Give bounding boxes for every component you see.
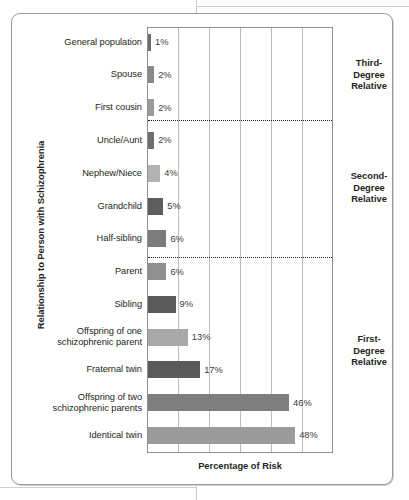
group-label-line1: Third- [341, 58, 397, 70]
bar-row: Sibling9% [0, 289, 409, 319]
bar-row-label: General population [12, 37, 142, 48]
bar-value-label: 46% [293, 398, 312, 408]
group-label-line3: Relative [341, 194, 397, 206]
group-label-second-degree: Second- Degree Relative [341, 171, 397, 206]
page-rule-bottom [0, 487, 197, 488]
bar-row: Identical twin48% [0, 420, 409, 450]
bar-wrapper: 6% [148, 256, 184, 286]
bar-row: Offspring of twoschizophrenic parents46% [0, 387, 409, 417]
bar-row-label: Fraternal twin [12, 364, 142, 375]
bar [148, 66, 154, 83]
group-label-first-degree: First- Degree Relative [341, 334, 397, 369]
bar-row: Uncle/Aunt2% [0, 125, 409, 155]
bar-wrapper: 4% [148, 158, 178, 188]
bar [148, 230, 166, 247]
group-label-line1: Second- [341, 171, 397, 183]
bar-row-label: Nephew/Niece [12, 168, 142, 179]
bar-row: Parent6% [0, 256, 409, 286]
bar-row-label-line1: Identical twin [12, 430, 142, 441]
bar-value-label: 1% [155, 37, 168, 47]
bar [148, 263, 166, 280]
bar-wrapper: 2% [148, 60, 172, 90]
bar-row-label-line1: Sibling [12, 299, 142, 310]
bar-row-label: Identical twin [12, 430, 142, 441]
bar-row-label-line1: First cousin [12, 102, 142, 113]
bar-row-label-line1: Uncle/Aunt [12, 135, 142, 146]
bar-wrapper: 2% [148, 93, 172, 123]
bar-wrapper: 5% [148, 191, 181, 221]
bar-row: First cousin2% [0, 93, 409, 123]
bar-row-label-line2: schizophrenic parents [12, 403, 142, 414]
bar-row-label-line1: Spouse [12, 69, 142, 80]
bar-row-label-line1: Nephew/Niece [12, 168, 142, 179]
bar-row-label: Offspring of twoschizophrenic parents [12, 392, 142, 414]
bar-value-label: 48% [299, 430, 318, 440]
bar-row-label-line1: Parent [12, 266, 142, 277]
bar-value-label: 5% [167, 201, 180, 211]
bar [148, 296, 176, 313]
bar-wrapper: 46% [148, 387, 312, 417]
bar-value-label: 2% [158, 70, 171, 80]
bar-row-label: Sibling [12, 299, 142, 310]
bar-row-label-line1: Offspring of one [12, 326, 142, 337]
bar [148, 427, 295, 444]
bar-row-label-line1: General population [12, 37, 142, 48]
bar-row-label-line1: Fraternal twin [12, 364, 142, 375]
bar-value-label: 13% [192, 332, 211, 342]
bar-wrapper: 6% [148, 224, 184, 254]
bar-row-label: Uncle/Aunt [12, 135, 142, 146]
bar-value-label: 2% [158, 135, 171, 145]
bar [148, 132, 154, 149]
bar-row-label-line1: Offspring of two [12, 392, 142, 403]
bar-value-label: 4% [164, 168, 177, 178]
bar-value-label: 6% [170, 234, 183, 244]
separator-second-first [148, 257, 332, 258]
bar-wrapper: 1% [148, 27, 169, 57]
bar-row: Half-sibling6% [0, 224, 409, 254]
bar-value-label: 9% [180, 299, 193, 309]
bar [148, 198, 163, 215]
group-label-line3: Relative [341, 81, 397, 93]
page-seam-bottom [196, 486, 197, 500]
bar-wrapper: 9% [148, 289, 193, 319]
separator-third-second [148, 120, 332, 121]
bar-row: General population1% [0, 27, 409, 57]
group-label-third-degree: Third- Degree Relative [341, 58, 397, 93]
group-label-line2: Degree [341, 70, 397, 82]
group-label-line2: Degree [341, 346, 397, 358]
group-label-line2: Degree [341, 183, 397, 195]
bar [148, 99, 154, 116]
bar-row-label: Grandchild [12, 201, 142, 212]
bar-value-label: 17% [204, 365, 223, 375]
bar-wrapper: 2% [148, 125, 172, 155]
bar-row-label: First cousin [12, 102, 142, 113]
bar-row-label-line1: Half-sibling [12, 233, 142, 244]
group-label-line1: First- [341, 334, 397, 346]
bar-row-label-line1: Grandchild [12, 201, 142, 212]
bar-row-label: Offspring of oneschizophrenic parent [12, 326, 142, 348]
bar-value-label: 2% [158, 103, 171, 113]
bar-wrapper: 13% [148, 322, 210, 352]
bar-row-label-line2: schizophrenic parent [12, 337, 142, 348]
bar-wrapper: 48% [148, 420, 318, 450]
page-rule-top [197, 6, 409, 7]
bar [148, 361, 200, 378]
bar [148, 394, 289, 411]
bar [148, 165, 160, 182]
bar-row-label: Parent [12, 266, 142, 277]
x-axis-title: Percentage of Risk [147, 461, 333, 471]
bar [148, 329, 188, 346]
bar-row-label: Half-sibling [12, 233, 142, 244]
bar [148, 34, 151, 51]
bar-value-label: 6% [170, 267, 183, 277]
bar-row-label: Spouse [12, 69, 142, 80]
group-label-line3: Relative [341, 357, 397, 369]
bar-wrapper: 17% [148, 355, 223, 385]
